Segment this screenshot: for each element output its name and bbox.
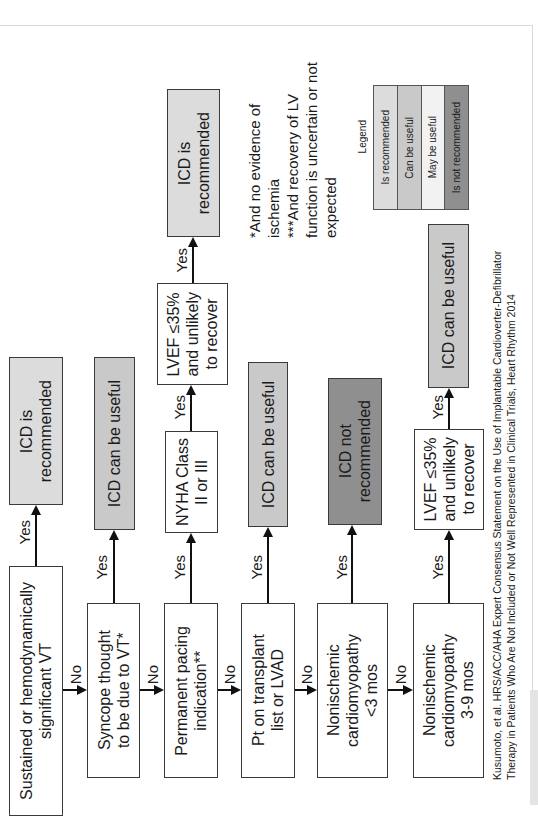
outcome-icd-recommended-2: ICD is recommended bbox=[167, 89, 220, 237]
arrow-up-icon bbox=[109, 530, 119, 540]
legend-can-be-useful: Can be useful bbox=[398, 86, 422, 209]
citation: Kusumoto, et al. HRS/ACC/AHA Expert Cons… bbox=[490, 130, 524, 780]
yes-label: Yes bbox=[172, 555, 188, 579]
intermediate-nyha: NYHA Class II or III bbox=[165, 431, 218, 533]
outcome-label: ICD is recommended bbox=[17, 380, 55, 482]
decision-label: Nonischemic cardiomyopathy <3 mos bbox=[324, 634, 381, 747]
decision-syncope: Syncope thought to be due to VT* bbox=[87, 603, 140, 778]
no-label: No bbox=[145, 665, 161, 684]
arrow-up-icon bbox=[186, 533, 196, 543]
no-label: No bbox=[222, 665, 238, 684]
frame-right-border bbox=[532, 25, 533, 805]
yes-connector-4 bbox=[190, 393, 192, 431]
yes-label: Yes bbox=[334, 555, 350, 579]
footnotes-text: *And no evidence of ischemia ***And reco… bbox=[245, 38, 340, 238]
yes-connector-6 bbox=[267, 535, 269, 603]
yes-connector-9 bbox=[448, 396, 450, 429]
legend-may-be-useful: May be useful bbox=[422, 86, 446, 209]
arrow-right-icon bbox=[154, 685, 164, 695]
yes-connector-5 bbox=[192, 245, 194, 283]
yes-connector-2 bbox=[113, 538, 115, 603]
arrow-up-icon bbox=[186, 385, 196, 395]
yes-label: Yes bbox=[430, 395, 446, 419]
arrow-right-icon bbox=[77, 685, 87, 695]
arrow-up-icon bbox=[31, 505, 41, 515]
decision-label: Syncope thought to be due to VT* bbox=[95, 630, 133, 750]
no-label: No bbox=[393, 665, 409, 684]
no-label: No bbox=[299, 665, 315, 684]
yes-connector-7 bbox=[351, 533, 353, 603]
arrow-up-icon bbox=[444, 530, 454, 540]
no-label: No bbox=[68, 665, 84, 684]
decision-label: Permanent pacing indication** bbox=[172, 626, 210, 756]
outcome-label: ICD can be useful bbox=[439, 242, 458, 369]
arrow-right-icon bbox=[403, 685, 413, 695]
outcome-icd-useful-1: ICD can be useful bbox=[94, 357, 135, 530]
yes-label: Yes bbox=[94, 555, 110, 579]
outcome-icd-useful-3: ICD can be useful bbox=[428, 224, 469, 388]
yes-label: Yes bbox=[17, 520, 33, 544]
yes-label: Yes bbox=[249, 555, 265, 579]
arrow-right-icon bbox=[231, 685, 241, 695]
intermediate-label: NYHA Class II or III bbox=[173, 438, 211, 526]
arrow-up-icon bbox=[188, 237, 198, 247]
footnotes: *And no evidence of ischemia ***And reco… bbox=[245, 38, 340, 238]
arrow-up-icon bbox=[347, 525, 357, 535]
yes-label: Yes bbox=[174, 248, 190, 272]
legend: Is recommended Can be useful May be usef… bbox=[373, 85, 469, 210]
decision-transplant: Pt on transplant list or LVAD bbox=[241, 603, 295, 778]
citation-text: Kusumoto, et al. HRS/ACC/AHA Expert Cons… bbox=[490, 130, 518, 780]
edge-strip bbox=[530, 690, 538, 805]
decision-nicm-lt3: Nonischemic cardiomyopathy <3 mos bbox=[317, 603, 388, 778]
decision-pacing: Permanent pacing indication** bbox=[164, 603, 218, 778]
outcome-label: ICD not recommended bbox=[336, 400, 374, 502]
decision-sustained-vt: Sustained or hemodynamically significant… bbox=[9, 566, 63, 816]
outcome-icd-not-recommended: ICD not recommended bbox=[328, 378, 382, 525]
decision-label: Pt on transplant list or LVAD bbox=[249, 634, 287, 746]
decision-label: Nonischemic cardiomyopathy 3-9 mos bbox=[420, 634, 477, 747]
yes-label: Yes bbox=[430, 555, 446, 579]
intermediate-lvef-2: LVEF ≤35% and unlikely to recover bbox=[414, 429, 484, 530]
arrow-up-icon bbox=[263, 527, 273, 537]
decision-nicm-3-9: Nonischemic cardiomyopathy 3-9 mos bbox=[413, 603, 484, 778]
outcome-icd-useful-2: ICD can be useful bbox=[248, 362, 288, 527]
yes-connector-1 bbox=[35, 513, 37, 566]
outcome-label: ICD can be useful bbox=[259, 381, 278, 508]
frame-top-border bbox=[0, 25, 533, 26]
outcome-icd-recommended-1: ICD is recommended bbox=[9, 357, 63, 505]
decision-label: Sustained or hemodynamically significant… bbox=[17, 582, 55, 800]
outcome-label: ICD can be useful bbox=[105, 380, 124, 507]
intermediate-label: LVEF ≤35% and unlikely to recover bbox=[421, 437, 478, 522]
yes-label: Yes bbox=[172, 395, 188, 419]
intermediate-label: LVEF ≤35% and unlikely to recover bbox=[164, 292, 221, 377]
outcome-label: ICD is recommended bbox=[175, 112, 213, 214]
yes-connector-3 bbox=[190, 541, 192, 603]
legend-is-recommended: Is recommended bbox=[374, 86, 398, 209]
legend-title: Legend bbox=[357, 120, 368, 153]
yes-connector-8 bbox=[448, 538, 450, 603]
legend-not-recommended: Is not recommended bbox=[445, 86, 468, 209]
intermediate-lvef-1: LVEF ≤35% and unlikely to recover bbox=[157, 283, 228, 385]
arrow-right-icon bbox=[307, 685, 317, 695]
